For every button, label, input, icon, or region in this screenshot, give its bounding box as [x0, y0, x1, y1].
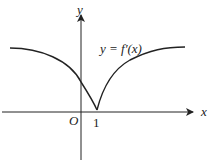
graph-canvas	[0, 0, 209, 160]
curve-label: y = f′(x)	[100, 42, 142, 55]
x-axis-label: x	[201, 105, 207, 118]
origin-label: O	[69, 114, 78, 127]
y-axis-label: y	[77, 3, 83, 16]
curve-right-branch	[97, 47, 185, 110]
curve-left-branch	[10, 48, 97, 110]
tick-label-1: 1	[93, 116, 100, 129]
